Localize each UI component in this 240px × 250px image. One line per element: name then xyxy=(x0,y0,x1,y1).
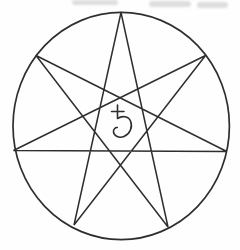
saturn-symbol xyxy=(112,105,132,137)
scan-artifact xyxy=(197,2,228,8)
scan-artifact xyxy=(72,0,118,5)
heptagram-svg xyxy=(0,0,240,250)
heptagram-figure xyxy=(0,0,240,250)
circle-outline xyxy=(13,12,229,239)
scan-artifact xyxy=(149,1,191,7)
